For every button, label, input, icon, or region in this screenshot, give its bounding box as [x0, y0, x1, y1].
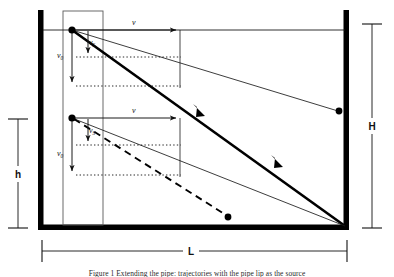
dimension-h: h	[8, 119, 28, 228]
upper-trajectories	[72, 30, 345, 226]
dimension-L-label: L	[188, 246, 194, 257]
upper-thick-trajectory	[72, 30, 345, 226]
thick-trajectory-arrowhead-1	[193, 104, 205, 117]
dimension-L: L	[42, 240, 347, 262]
upper-vS-label: vS	[89, 38, 96, 48]
lower-source-dot	[68, 114, 75, 121]
tank-group	[38, 10, 349, 230]
upper-v-label: v	[132, 18, 136, 27]
lower-trajectories	[72, 118, 345, 226]
lower-vS-label: vS	[89, 126, 96, 136]
thick-trajectory-arrowhead-2	[271, 155, 283, 168]
dimension-H-label: H	[368, 121, 375, 132]
dot-upper-right-endpoint	[336, 108, 343, 115]
lower-thin-trajectory	[72, 118, 345, 226]
dot-floor-endpoint	[225, 214, 232, 221]
tank-right-wall	[344, 10, 350, 230]
upper-source-dot	[68, 26, 75, 33]
upper-thin-trajectory	[72, 30, 338, 111]
figure-caption: Figure 1 Extending the pipe: trajectorie…	[0, 268, 394, 277]
lower-dashed-trajectory	[74, 119, 226, 215]
dimension-h-label: h	[15, 169, 21, 180]
tank-left-wall	[38, 10, 44, 230]
lower-v-label: v	[132, 106, 136, 115]
dimension-H: H	[362, 24, 382, 228]
